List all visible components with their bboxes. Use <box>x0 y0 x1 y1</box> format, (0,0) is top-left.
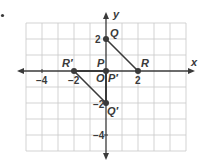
point-Q <box>103 36 109 42</box>
label-P-prime: P′ <box>108 72 119 84</box>
y-tick-label-2: 2 <box>95 34 101 45</box>
y-tick-label-neg4: −4 <box>93 130 105 141</box>
x-tick-label-neg4: −4 <box>36 75 48 86</box>
x-tick-label-2: 2 <box>135 75 141 86</box>
x-axis-right-arrow-icon <box>188 68 195 74</box>
label-P: P <box>97 57 105 69</box>
coordinate-plane-figure: x y −4 −2 2 2 −2 −4 Q R P O P′ R′ Q′ <box>0 0 203 167</box>
x-axis-label: x <box>190 56 198 68</box>
x-tick-label-neg2: −2 <box>68 75 80 86</box>
bullet-dot <box>1 14 4 17</box>
label-R-prime: R′ <box>62 57 74 69</box>
label-Q: Q <box>110 27 119 39</box>
label-R: R <box>141 57 149 69</box>
y-tick-label-neg2: −2 <box>93 99 105 110</box>
y-axis-down-arrow-icon <box>103 153 109 160</box>
label-origin-O: O <box>96 72 105 84</box>
y-axis-label: y <box>112 8 120 20</box>
x-axis-left-arrow-icon <box>17 68 24 74</box>
y-axis-up-arrow-icon <box>103 12 109 19</box>
label-Q-prime: Q′ <box>107 105 120 117</box>
